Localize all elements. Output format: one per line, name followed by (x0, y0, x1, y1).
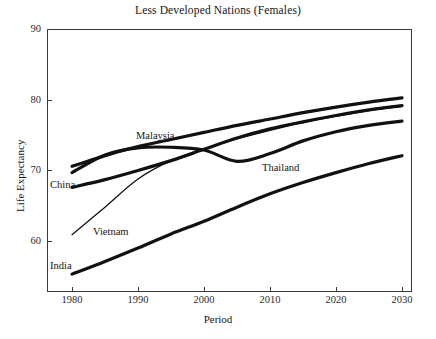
x-tick-label-2010: 2010 (250, 294, 290, 305)
x-tick-label-1980: 1980 (52, 294, 92, 305)
x-tick-mark-2020 (336, 287, 337, 292)
x-tick-label-2030: 2030 (382, 294, 422, 305)
x-tick-mark-1990 (138, 287, 139, 292)
series-label-india: India (50, 260, 72, 271)
series-label-vietnam: Vietnam (93, 226, 129, 237)
x-tick-mark-2010 (270, 287, 271, 292)
x-tick-mark-1980 (72, 287, 73, 292)
series-label-malaysia: Malaysia (136, 130, 175, 141)
chart-title: Less Developed Nations (Females) (0, 4, 436, 16)
series-label-china: China (50, 179, 75, 190)
x-tick-label-2000: 2000 (184, 294, 224, 305)
y-tick-label-70: 70 (15, 164, 41, 175)
y-tick-label-60: 60 (15, 235, 41, 246)
y-axis-title: Life Expectancy (14, 140, 26, 212)
x-tick-label-1990: 1990 (118, 294, 158, 305)
series-label-thailand: Thailand (262, 162, 299, 173)
x-tick-mark-2000 (204, 287, 205, 292)
y-tick-label-90: 90 (15, 23, 41, 34)
x-tick-label-2020: 2020 (316, 294, 356, 305)
x-tick-mark-2030 (402, 287, 403, 292)
y-tick-label-80: 80 (15, 94, 41, 105)
plot-frame (47, 29, 412, 292)
x-axis-title: Period (0, 313, 436, 325)
life-expectancy-chart: Less Developed Nations (Females) Life Ex… (0, 0, 436, 339)
